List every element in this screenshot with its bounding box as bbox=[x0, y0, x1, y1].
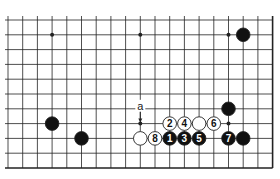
black-stone: 3 bbox=[178, 132, 192, 146]
move-number: 7 bbox=[226, 133, 232, 144]
black-stone: 1 bbox=[163, 132, 177, 146]
star-point bbox=[138, 33, 142, 37]
white-stone bbox=[192, 117, 206, 131]
star-point bbox=[227, 33, 231, 37]
black-stone bbox=[75, 132, 89, 146]
annotations: a bbox=[135, 100, 145, 123]
move-number: 5 bbox=[196, 133, 202, 144]
point-label: a bbox=[137, 100, 144, 112]
move-number: 3 bbox=[182, 133, 188, 144]
white-stone: 6 bbox=[207, 117, 221, 131]
move-number: 8 bbox=[152, 133, 158, 144]
black-stone bbox=[222, 102, 236, 116]
stones: 81357246 bbox=[45, 28, 250, 145]
move-number: 6 bbox=[211, 118, 217, 129]
star-point bbox=[227, 122, 231, 126]
black-stone bbox=[236, 132, 250, 146]
black-stone bbox=[236, 28, 250, 42]
black-stone bbox=[45, 117, 59, 131]
black-stone: 5 bbox=[192, 132, 206, 146]
move-number: 2 bbox=[167, 118, 173, 129]
star-point bbox=[50, 33, 54, 37]
white-stone: 4 bbox=[178, 117, 192, 131]
white-stone: 8 bbox=[148, 132, 162, 146]
move-number: 1 bbox=[167, 133, 173, 144]
white-stone bbox=[134, 132, 148, 146]
go-board: 81357246 a bbox=[0, 0, 280, 179]
black-stone: 7 bbox=[222, 132, 236, 146]
arrowhead-icon bbox=[138, 119, 142, 123]
move-number: 4 bbox=[182, 118, 188, 129]
white-stone: 2 bbox=[163, 117, 177, 131]
